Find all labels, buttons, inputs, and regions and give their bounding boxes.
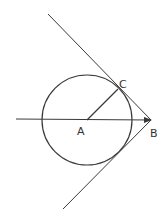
ray-to-B [16,119,151,120]
upper-tangent-line [48,14,151,120]
label-B: B [150,127,158,140]
label-A: A [77,125,85,138]
radius-AC [87,89,118,120]
geometry-diagram: A B C [0,0,165,216]
label-C: C [119,78,127,91]
